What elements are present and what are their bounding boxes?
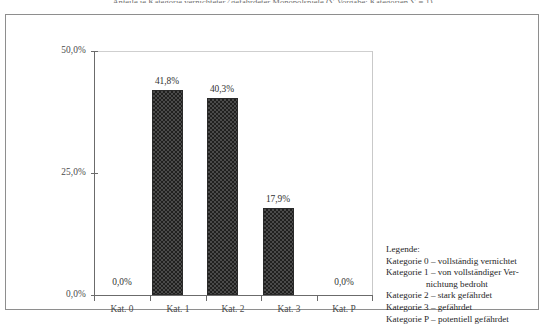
figure-caption-text: Anteile je Kategorie vernichteter ⁄ gefä… xyxy=(112,0,432,3)
bar-value-label-kat-0: 0,0% xyxy=(87,277,157,287)
legend-item-kategorie-p: Kategorie P – potentiell gefährdet xyxy=(386,314,536,326)
figure-caption: Anteile je Kategorie vernichteter ⁄ gefä… xyxy=(0,0,545,3)
bar-value-label-kat-2: 40,3% xyxy=(187,84,257,94)
figure-frame: 50,0% 25,0% 0,0% Kat. 0 Kat. 1 Kat. 2 Ka… xyxy=(5,14,539,310)
legend-item-kategorie-0: Kategorie 0 – vollständig vernichtet xyxy=(386,256,536,268)
bar-value-label-kat-p: 0,0% xyxy=(309,277,379,287)
y-tick-label-0: 0,0% xyxy=(28,289,86,299)
x-axis-label-kat-2: Kat. 2 xyxy=(205,304,261,314)
y-tick-mark-25 xyxy=(91,173,98,174)
x-tick-mark-5 xyxy=(372,295,373,301)
y-tick-label-25: 25,0% xyxy=(28,167,86,177)
bar-kat-2 xyxy=(207,98,238,295)
plot-right-edge xyxy=(372,51,373,296)
category-axis-line xyxy=(94,295,373,296)
x-axis-label-kat-3: Kat. 3 xyxy=(261,304,317,314)
x-tick-mark-3 xyxy=(261,295,262,301)
bar-kat-1 xyxy=(152,90,183,295)
x-axis-label-kat-1: Kat. 1 xyxy=(150,304,206,314)
x-tick-mark-1 xyxy=(150,295,151,301)
legend-title: Legende: xyxy=(386,244,536,256)
legend-item-kategorie-1: Kategorie 1 – von vollständiger Ver- xyxy=(386,267,536,279)
x-tick-mark-0 xyxy=(94,295,95,301)
x-axis-label-kat-0: Kat. 0 xyxy=(94,304,150,314)
bar-value-label-kat-3: 17,9% xyxy=(243,194,313,204)
legend-item-kategorie-1-cont: nichtung bedroht xyxy=(386,279,536,291)
x-axis-label-kat-p: Kat. P xyxy=(316,304,372,314)
x-tick-mark-2 xyxy=(206,295,207,301)
legend-item-kategorie-3: Kategorie 3 – gefährdet xyxy=(386,302,536,314)
bar-kat-3 xyxy=(263,208,294,295)
y-tick-mark-50 xyxy=(91,51,98,52)
legend: Legende: Kategorie 0 – vollständig verni… xyxy=(386,244,536,325)
legend-item-kategorie-2: Kategorie 2 – stark gefährdet xyxy=(386,290,536,302)
plot-top-edge xyxy=(94,51,373,52)
y-tick-label-50: 50,0% xyxy=(28,45,86,55)
x-tick-mark-4 xyxy=(317,295,318,301)
